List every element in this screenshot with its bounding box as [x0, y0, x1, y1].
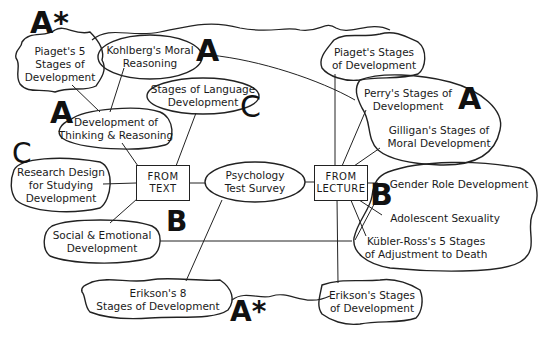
- node-label-line: Development: [168, 96, 239, 109]
- node-label-line: Gender Role Development: [390, 178, 529, 191]
- node-social-emotional: Social & Emotional Development: [46, 226, 158, 258]
- node-label-line: Thinking & Reasoning: [59, 129, 173, 142]
- node-piaget-stages: Piaget's Stages of Development: [324, 42, 424, 76]
- node-label-line: Perry's Stages of: [364, 87, 452, 100]
- node-label-line: Erikson's 8: [130, 287, 187, 300]
- node-kohlberg-moral-reasoning: Kohlberg's Moral Reasoning: [100, 40, 200, 74]
- node-kubler-ross: Kübler-Ross's 5 Stages of Adjustment to …: [356, 232, 496, 264]
- node-label-line: Piaget's Stages: [334, 46, 414, 59]
- grade-kohlberg: A: [196, 36, 219, 66]
- node-label-line: of Development: [332, 59, 416, 72]
- grade-gender-group: B: [370, 180, 393, 210]
- node-label-line: Moral Development: [387, 137, 490, 150]
- node-perry-stages: Perry's Stages of Development: [358, 85, 458, 115]
- center-node-psychology-test-survey: Psychology Test Survey: [205, 164, 305, 200]
- node-thinking-reasoning: Development of Thinking & Reasoning: [60, 112, 172, 146]
- node-label-line: Social & Emotional: [53, 229, 152, 242]
- from-lecture-box: FROM LECTURE: [314, 165, 368, 201]
- grade-social: B: [166, 208, 187, 236]
- grade-piaget5: A*: [30, 8, 69, 38]
- node-label-line: of Development: [330, 302, 414, 315]
- from-text-box: FROM TEXT: [136, 165, 190, 201]
- node-erikson-stages: Erikson's Stages of Development: [322, 286, 422, 318]
- node-label-line: Stages of Development: [96, 300, 219, 313]
- grade-research: C: [12, 140, 32, 168]
- grade-thinking: A: [50, 98, 73, 128]
- hub-label-line: TEXT: [149, 183, 176, 195]
- node-label-line: Kohlberg's Moral: [106, 44, 193, 57]
- grade-erikson8: A*: [230, 298, 266, 326]
- node-label-line: Piaget's 5: [34, 45, 85, 58]
- center-label-line: Psychology: [226, 169, 285, 182]
- node-erikson-8-stages: Erikson's 8 Stages of Development: [88, 284, 228, 316]
- node-label-line: Development: [373, 100, 444, 113]
- hub-label-line: LECTURE: [316, 183, 365, 195]
- node-adolescent-sexuality: Adolescent Sexuality: [384, 210, 506, 226]
- node-gender-role: Gender Role Development: [392, 176, 526, 192]
- node-label-line: Gilligan's Stages of: [389, 124, 490, 137]
- hub-label-line: FROM: [147, 171, 178, 183]
- node-label-line: for Studying: [29, 179, 93, 192]
- node-label-line: Reasoning: [123, 57, 178, 70]
- center-label-line: Test Survey: [225, 182, 286, 195]
- node-label-line: Adolescent Sexuality: [390, 212, 500, 225]
- node-gilligan-stages: Gilligan's Stages of Moral Development: [382, 122, 496, 152]
- node-label-line: Stages of: [35, 58, 84, 71]
- node-label-line: Kübler-Ross's 5 Stages: [367, 235, 485, 248]
- node-label-line: Development: [25, 71, 96, 84]
- node-label-line: Erikson's Stages: [329, 289, 415, 302]
- node-label-line: Development of: [74, 116, 158, 129]
- node-label-line: Development: [67, 242, 138, 255]
- grade-perry-gilligan: A: [458, 84, 481, 114]
- hub-label-line: FROM: [325, 171, 356, 183]
- node-label-line: of Adjustment to Death: [365, 248, 488, 261]
- node-piaget-5-stages: Piaget's 5 Stages of Development: [18, 38, 102, 90]
- node-label-line: Development: [26, 192, 97, 205]
- grade-language: C: [240, 92, 261, 122]
